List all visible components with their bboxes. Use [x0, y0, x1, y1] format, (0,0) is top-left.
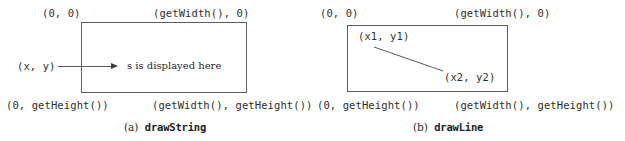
label-bottom-right-a: (getWidth(), getHeight()): [152, 99, 313, 111]
caption-index-b: (b): [413, 121, 428, 133]
label-bottom-left-b: (0, getHeight()): [317, 99, 420, 111]
caption-a: (a) drawString: [124, 121, 206, 134]
caption-method-b: drawLine: [434, 121, 483, 133]
caption-index-a: (a): [124, 121, 138, 133]
label-origin-point-a: (x, y): [17, 60, 56, 72]
label-bottom-left-a: (0, getHeight()): [6, 99, 109, 111]
panel-drawstring: (0, 0) (getWidth(), 0) (x, y) s is displ…: [0, 0, 313, 141]
panel-drawline: (0, 0) (getWidth(), 0) (x1, y1) (x2, y2)…: [313, 0, 625, 141]
arrow-right-icon: [111, 63, 118, 69]
label-top-left-b: (0, 0): [320, 7, 359, 19]
caption-method-a: drawString: [145, 121, 206, 133]
caption-b: (b) drawLine: [413, 121, 483, 134]
label-point-1-b: (x1, y1): [358, 30, 409, 42]
label-inner-text-a: s is displayed here: [127, 60, 221, 72]
label-bottom-right-b: (getWidth(), getHeight()): [454, 99, 615, 111]
label-top-right-a: (getWidth(), 0): [153, 7, 249, 19]
canvas-rectangle-a: [81, 22, 247, 93]
label-point-2-b: (x2, y2): [444, 71, 495, 83]
label-top-left-a: (0, 0): [42, 7, 81, 19]
label-top-right-b: (getWidth(), 0): [454, 7, 550, 19]
arrow-shaft: [58, 66, 111, 67]
figure-drawstring-drawline: (0, 0) (getWidth(), 0) (x, y) s is displ…: [0, 0, 625, 141]
